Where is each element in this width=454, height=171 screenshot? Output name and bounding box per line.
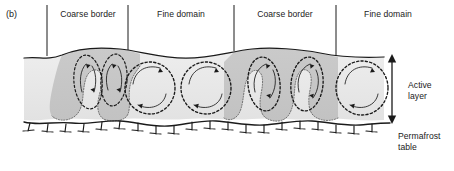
- label-coarse-border-right: Coarse border: [257, 9, 313, 20]
- label-coarse-border-left: Coarse border: [60, 9, 116, 20]
- label-permafrost-table: Permafrost table: [398, 131, 441, 152]
- permafrost-table: [23, 121, 390, 134]
- cross-section-svg: [0, 0, 454, 171]
- label-fine-domain-right: Fine domain: [364, 9, 412, 20]
- permafrost-table-line: [24, 121, 390, 126]
- label-active-layer: Active layer: [408, 80, 432, 101]
- patterned-ground-cross-section-figure: (b) Coarse border Fine domain Coarse bor…: [0, 0, 454, 171]
- panel-letter: (b): [6, 9, 17, 20]
- label-fine-domain-left: Fine domain: [157, 9, 205, 20]
- active-layer-depth-arrow: [388, 54, 396, 124]
